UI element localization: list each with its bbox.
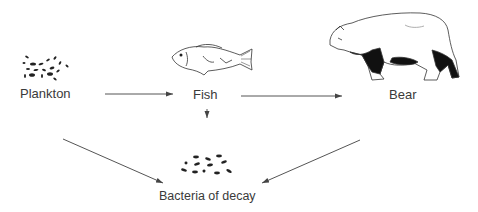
bacteria-label: Bacteria of decay <box>159 189 256 203</box>
bear-label: Bear <box>389 87 416 102</box>
bacteria-icon <box>181 155 233 175</box>
plankton-label: Plankton <box>20 86 71 101</box>
arrow-bear-to-bacteria <box>262 140 360 183</box>
bear-icon <box>330 13 459 80</box>
diagram-graphics <box>0 0 478 212</box>
arrow-plankton-to-bacteria <box>63 139 163 183</box>
fish-label: Fish <box>193 87 218 102</box>
food-chain-diagram: Plankton Fish Bear Bacteria of decay <box>0 0 478 212</box>
fish-icon <box>172 44 252 75</box>
plankton-icon <box>23 55 70 81</box>
